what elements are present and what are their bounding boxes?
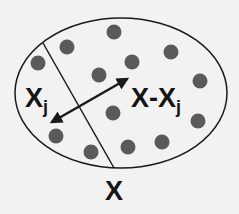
set-label: X (105, 176, 123, 206)
element-dot (84, 145, 99, 160)
element-dot (191, 114, 206, 129)
element-dot (155, 135, 170, 150)
element-dot (31, 56, 46, 71)
subset-label: Xj (25, 83, 48, 117)
element-dot (121, 140, 136, 155)
set-partition-diagram: Xj X-Xj X (0, 0, 239, 214)
element-dot (193, 74, 208, 89)
element-dots (31, 25, 208, 160)
element-dot (164, 45, 179, 60)
complement-label: X-Xj (131, 83, 181, 117)
element-dot (107, 25, 122, 40)
element-dot (125, 55, 140, 70)
element-dot (60, 40, 75, 55)
element-dot (49, 129, 64, 144)
element-dot (92, 68, 107, 83)
element-dot (106, 106, 121, 121)
